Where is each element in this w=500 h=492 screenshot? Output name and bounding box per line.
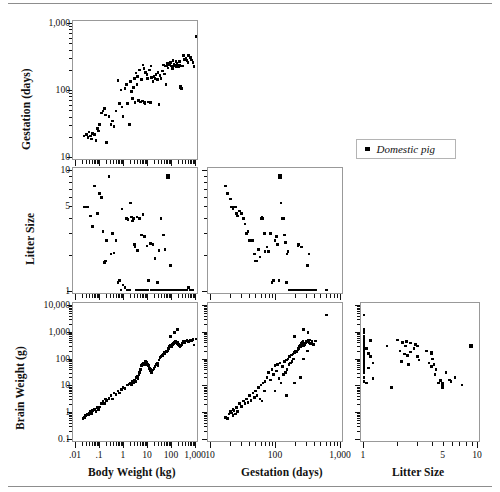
- data-point: [441, 382, 444, 385]
- y-axis-tick: [202, 170, 208, 171]
- data-point: [285, 281, 288, 284]
- x-axis-tick: [89, 294, 90, 298]
- y-axis-tick: [69, 420, 73, 421]
- x-axis-tick: [161, 160, 162, 164]
- data-point: [257, 248, 260, 251]
- data-point: [136, 249, 139, 252]
- y-axis-tick: [204, 189, 208, 190]
- panel-brain-weight-vs-litter-size[interactable]: [360, 302, 480, 442]
- x-axis-title-litter-size: Litter Size: [392, 466, 444, 478]
- data-point: [148, 69, 151, 72]
- data-point: [156, 78, 159, 81]
- y-axis-tick: [69, 117, 73, 118]
- data-point: [263, 390, 266, 393]
- x-axis-tick: [249, 294, 250, 298]
- x-axis-tick: [178, 442, 179, 446]
- x-axis-tick: [265, 294, 266, 298]
- x-axis-tick: [334, 442, 335, 446]
- data-point-domestic-pig: [166, 174, 171, 179]
- data-point: [416, 345, 419, 348]
- data-point: [102, 110, 105, 113]
- data-point: [291, 360, 294, 363]
- y-axis-tick: [69, 346, 73, 347]
- data-point: [89, 215, 92, 218]
- x-axis-tick: [140, 294, 141, 298]
- x-axis-tick: [154, 294, 155, 298]
- y-axis-tick: [69, 125, 73, 126]
- data-point: [302, 358, 305, 361]
- y-axis-tick: [357, 336, 361, 337]
- y-axis-tick: [69, 391, 73, 392]
- y-axis-tick: [204, 373, 208, 374]
- data-point: [242, 217, 245, 220]
- x-axis-tick: [306, 442, 307, 446]
- y-axis-tick: [204, 377, 208, 378]
- data-point: [281, 365, 284, 368]
- x-axis-tick: [116, 442, 117, 446]
- data-point: [100, 196, 103, 199]
- x-axis-tick: [171, 294, 172, 300]
- x-axis-tick: [106, 160, 107, 164]
- y-axis-tick: [357, 306, 361, 307]
- y-axis-tick: [204, 391, 208, 392]
- panel-brain-weight-vs-body-weight[interactable]: [72, 302, 198, 442]
- x-axis-tick: [86, 442, 87, 446]
- x-axis-tick: [334, 294, 335, 298]
- data-point: [158, 249, 161, 252]
- y-axis-tick: [69, 324, 73, 325]
- legend[interactable]: Domestic pig: [356, 139, 456, 159]
- x-axis-tick: [195, 160, 196, 166]
- x-axis-tick: [75, 294, 76, 300]
- y-axis-tick: [204, 360, 208, 361]
- x-axis-tick: [106, 294, 107, 298]
- y-axis-tick: [69, 43, 73, 44]
- y-axis-tick: [69, 393, 73, 394]
- panel-litter-size-vs-body-weight[interactable]: [72, 167, 198, 294]
- y-axis-tick: [204, 324, 208, 325]
- data-point: [257, 386, 260, 389]
- data-point: [132, 86, 135, 89]
- x-axis-tick: [261, 442, 262, 446]
- y-axis-tick: [69, 369, 73, 370]
- x-axis-tick: [140, 442, 141, 446]
- y-axis-tick: [357, 309, 361, 310]
- data-point: [88, 131, 91, 134]
- y-axis-tick: [204, 396, 208, 397]
- y-axis-tick: [204, 255, 208, 256]
- data-point: [192, 289, 195, 292]
- y-axis-tick: [204, 367, 208, 368]
- data-point: [282, 217, 285, 220]
- y-axis-tick: [355, 332, 361, 333]
- data-point: [256, 260, 259, 263]
- data-point: [173, 331, 176, 334]
- data-point: [176, 328, 179, 331]
- x-axis-tick: [275, 294, 276, 300]
- data-point: [95, 139, 98, 142]
- y-axis-tick: [69, 399, 73, 400]
- x-axis-tick: [340, 442, 341, 448]
- data-point-domestic-pig: [469, 344, 474, 349]
- panel-brain-weight-vs-gestation[interactable]: [207, 302, 343, 442]
- y-axis-tick: [69, 137, 73, 138]
- data-point: [314, 340, 317, 343]
- x-axis-tick: [171, 160, 172, 166]
- data-point: [163, 73, 166, 76]
- y-axis-tick: [357, 338, 361, 339]
- data-point: [264, 250, 267, 253]
- y-axis-tick: [357, 431, 361, 432]
- data-point: [160, 77, 163, 80]
- data-point: [226, 417, 229, 420]
- data-point: [259, 256, 262, 259]
- y-axis-tick-label: 10: [40, 164, 70, 175]
- y-axis-tick: [204, 388, 208, 389]
- panel-litter-size-vs-gestation[interactable]: [207, 167, 343, 294]
- data-point: [134, 246, 137, 249]
- x-axis-tick: [154, 442, 155, 446]
- y-axis-tick: [204, 415, 208, 416]
- data-point: [142, 64, 145, 67]
- panel-gestation-vs-body-weight[interactable]: [72, 20, 198, 160]
- x-axis-tick: [147, 160, 148, 166]
- x-axis-tick: [134, 442, 135, 446]
- data-point: [96, 212, 99, 215]
- data-point: [306, 264, 309, 267]
